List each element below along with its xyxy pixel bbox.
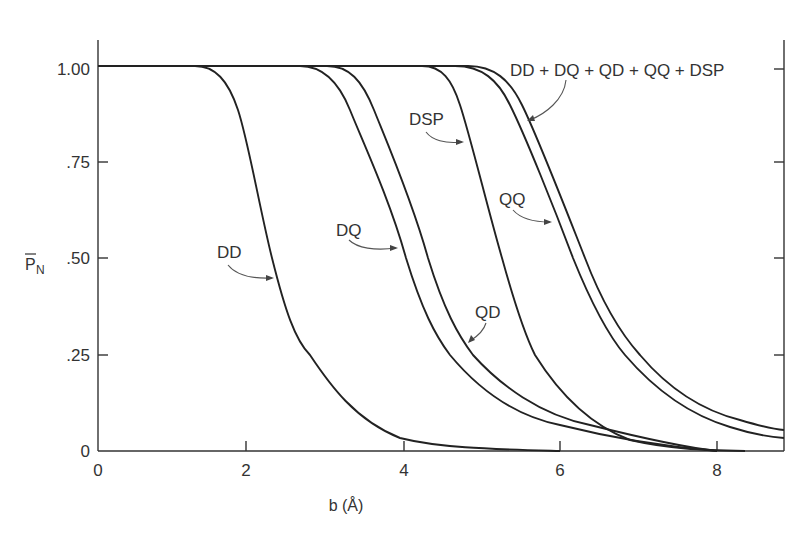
curve-dq (98, 66, 717, 451)
chart-plot: 1.00 .75 .50 .25 0 0 2 4 6 8 b (Å) P N D… (0, 0, 786, 535)
arrowhead-dq-icon (390, 245, 398, 251)
arrow-dd-icon (228, 265, 272, 278)
x-tick-labels: 0 2 4 6 8 (93, 461, 721, 480)
x-tick-label: 2 (241, 461, 250, 480)
annotations: DD DQ QD DSP QQ DD + DQ + QD + QQ + DSP (217, 61, 724, 343)
label-dd: DD (217, 243, 242, 262)
x-axis-title: b (Å) (329, 496, 364, 514)
arrowhead-qq-icon (544, 219, 552, 225)
y-tick-labels: 1.00 .75 .50 .25 0 (57, 60, 90, 461)
curve-qd (98, 66, 717, 451)
x-tick-label: 0 (93, 461, 102, 480)
y-tick-label: .75 (66, 153, 90, 172)
y-tick-label: .50 (66, 249, 90, 268)
arrow-dq-icon (349, 240, 396, 249)
y-axis-title-main: P (25, 256, 36, 273)
x-tick-label: 8 (712, 461, 721, 480)
label-qd: QD (475, 303, 501, 322)
arrowhead-qd-icon (468, 335, 475, 343)
arrowhead-dd-icon (266, 275, 274, 281)
label-qq: QQ (499, 190, 525, 209)
label-dsp: DSP (409, 110, 444, 129)
y-axis-title-sub: N (36, 263, 45, 277)
label-dq: DQ (336, 221, 362, 240)
label-total: DD + DQ + QD + QQ + DSP (510, 61, 724, 80)
y-tick-label: 0 (81, 442, 90, 461)
y-axis-title: P N (25, 254, 45, 277)
y-tick-label: .25 (66, 346, 90, 365)
y-tick-label: 1.00 (57, 60, 90, 79)
arrow-total-icon (530, 80, 566, 120)
x-tick-label: 4 (399, 461, 408, 480)
x-tick-label: 6 (555, 461, 564, 480)
arrowhead-dsp-icon (456, 139, 464, 145)
axes (98, 40, 784, 451)
